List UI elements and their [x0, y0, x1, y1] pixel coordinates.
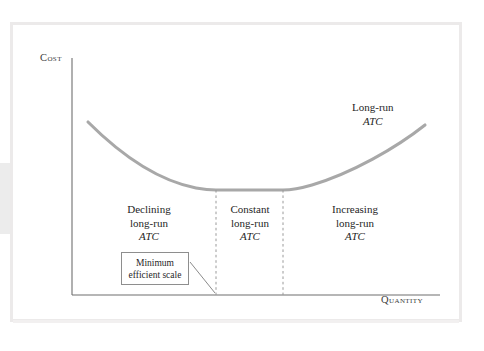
curve-label: Long-run ATC: [352, 101, 394, 128]
region-declining-line2: long-run: [90, 217, 208, 231]
callout-line2: efficient scale: [122, 269, 188, 281]
region-increasing-line1: Increasing: [296, 203, 414, 217]
region-declining-line1: Declining: [90, 203, 208, 217]
region-constant-atc: ATC: [218, 230, 282, 244]
region-increasing-line2: long-run: [296, 217, 414, 231]
region-label-constant: Constant long-run ATC: [218, 203, 282, 244]
region-label-declining: Declining long-run ATC: [90, 203, 208, 244]
curve-label-atc: ATC: [352, 115, 394, 129]
figure-page: Cost Quantity Long-run ATC Declining lon…: [0, 0, 484, 351]
region-declining-atc: ATC: [90, 230, 208, 244]
long-run-atc-curve: [88, 122, 425, 190]
x-axis-label: Quantity: [381, 294, 423, 305]
curve-label-line1: Long-run: [352, 101, 394, 115]
callout-leader-line: [190, 262, 215, 293]
region-label-increasing: Increasing long-run ATC: [296, 203, 414, 244]
minimum-efficient-scale-callout: Minimum efficient scale: [121, 252, 189, 285]
region-increasing-atc: ATC: [296, 230, 414, 244]
region-constant-line1: Constant: [218, 203, 282, 217]
y-axis-label: Cost: [40, 52, 62, 63]
region-constant-line2: long-run: [218, 217, 282, 231]
callout-line1: Minimum: [122, 257, 188, 269]
